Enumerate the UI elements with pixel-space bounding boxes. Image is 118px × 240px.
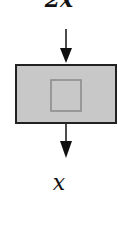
input-arrow [60, 29, 72, 63]
output-arrow [60, 124, 72, 158]
output-label: x [0, 170, 118, 195]
process-block [16, 65, 116, 123]
